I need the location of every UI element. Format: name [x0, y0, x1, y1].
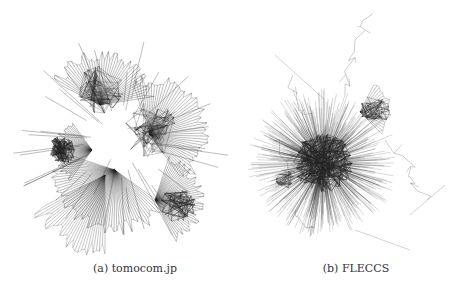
network-graph-fleccs: [235, 0, 471, 260]
panel-tomocom: (a) tomocom.jp: [0, 0, 235, 290]
caption-fleccs: (b) FLECCS: [286, 262, 426, 275]
caption-tomocom: (a) tomocom.jp: [65, 262, 205, 275]
network-graph-tomocom: [0, 0, 235, 260]
panel-fleccs: (b) FLECCS: [235, 0, 471, 290]
